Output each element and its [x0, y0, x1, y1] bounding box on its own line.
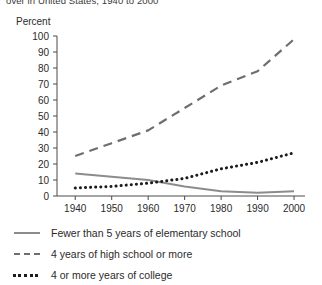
y-tick-label: 80: [38, 63, 50, 74]
x-tick-label: 1940: [64, 203, 87, 214]
y-tick-label: 70: [38, 79, 50, 90]
y-tick-label: 60: [38, 95, 50, 106]
legend-item-highschool: 4 years of high school or more: [12, 243, 322, 264]
legend-item-college: 4 or more years of college: [12, 264, 322, 285]
series-line: [75, 174, 294, 193]
legend-label-highschool: 4 years of high school or more: [51, 248, 192, 260]
y-tick-label: 50: [38, 111, 50, 122]
x-tick-label: 1990: [246, 203, 269, 214]
x-tick-label: 1960: [137, 203, 160, 214]
legend-item-elementary: Fewer than 5 years of elementary school: [12, 222, 322, 243]
data-series-group: [75, 39, 294, 193]
y-tick-label: 10: [38, 175, 50, 186]
y-axis: 0102030405060708090100: [32, 31, 57, 202]
y-tick-label: 30: [38, 143, 50, 154]
y-tick-label: 20: [38, 159, 50, 170]
y-tick-label: 40: [38, 127, 50, 138]
x-axis: 1940195019601970198019902000: [57, 196, 306, 214]
legend-swatch-dashed-icon: [12, 249, 42, 259]
y-tick-label: 90: [38, 47, 50, 58]
legend-swatch-dotted-icon: [12, 270, 42, 280]
x-tick-label: 1970: [174, 203, 197, 214]
legend-label-elementary: Fewer than 5 years of elementary school: [51, 227, 241, 239]
x-tick-label: 1950: [101, 203, 124, 214]
x-tick-label: 2000: [283, 203, 306, 214]
series-line: [75, 39, 294, 156]
chart-legend: Fewer than 5 years of elementary school …: [12, 222, 322, 285]
y-tick-label: 100: [32, 31, 49, 42]
chart-figure: over in United States, 1940 to 2000 Perc…: [0, 0, 322, 285]
series-line: [75, 153, 294, 188]
x-tick-label: 1980: [210, 203, 233, 214]
legend-swatch-solid-icon: [12, 228, 42, 238]
legend-label-college: 4 or more years of college: [51, 269, 172, 281]
y-tick-label: 0: [43, 191, 49, 202]
